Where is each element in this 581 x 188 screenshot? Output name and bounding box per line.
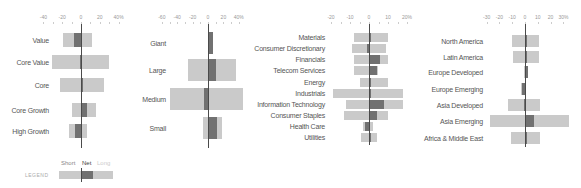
tick-label: 10 [535, 14, 541, 20]
tick-mark [563, 22, 564, 24]
legend-bar-net [81, 171, 93, 179]
tick-mark [551, 22, 552, 24]
tick-mark [512, 22, 513, 24]
net-bar [525, 115, 534, 127]
category-label: Africa & Middle East [424, 135, 483, 142]
tick-label: 20 [548, 14, 554, 20]
category-label: Asia Emerging [440, 118, 483, 125]
legend-long-label: Long [97, 160, 110, 166]
category-label: Europe Emerging [432, 86, 483, 93]
legend-title: LEGEND [25, 172, 49, 178]
tick-mark [487, 22, 488, 24]
tick-label: 30% [558, 14, 568, 20]
zero-axis-line [525, 24, 526, 147]
tick-label: -10 [509, 14, 516, 20]
category-label: Asia Developed [437, 102, 483, 109]
tick-label: -30 [483, 14, 490, 20]
category-label: North America [441, 38, 483, 45]
category-label: Europe Developed [428, 69, 483, 76]
tick-mark [538, 22, 539, 24]
legend-zero-line [81, 168, 82, 182]
legend-net-label: Net [82, 160, 91, 166]
legend-short-label: Short [61, 160, 75, 166]
tick-mark [499, 22, 500, 24]
category-label: Latin America [443, 54, 483, 61]
tick-label: 0 [524, 14, 527, 20]
tick-label: -20 [496, 14, 503, 20]
